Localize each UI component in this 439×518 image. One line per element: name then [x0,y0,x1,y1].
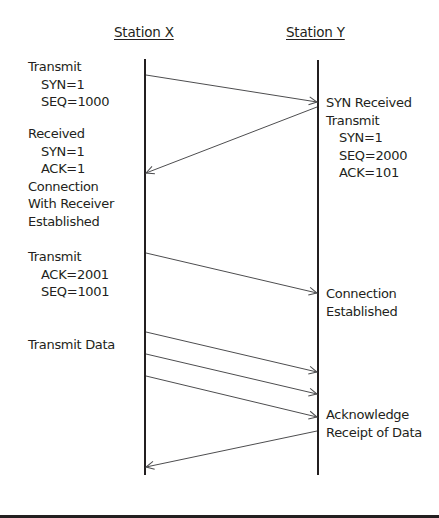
right-label-syn-received: SYN Received Transmit SYN=1 SEQ=2000 ACK… [326,94,412,182]
message-arrows [146,75,317,467]
left-label-received: Received SYN=1 ACK=1 Connection With Rec… [28,125,114,230]
message-arrow [146,431,317,467]
message-arrow [146,354,317,394]
message-arrow [146,376,317,417]
right-label-connection-established: Connection Established [326,285,398,320]
right-label-acknowledge: Acknowledge Receipt of Data [326,406,422,441]
message-arrow [146,253,317,293]
message-arrow [146,107,317,173]
left-label-transmit-data: Transmit Data [28,336,115,354]
left-label-syn: Transmit SYN=1 SEQ=1000 [28,58,109,111]
left-label-ack: Transmit ACK=2001 SEQ=1001 [28,248,109,301]
message-arrow [146,332,317,372]
message-arrow [146,75,317,102]
